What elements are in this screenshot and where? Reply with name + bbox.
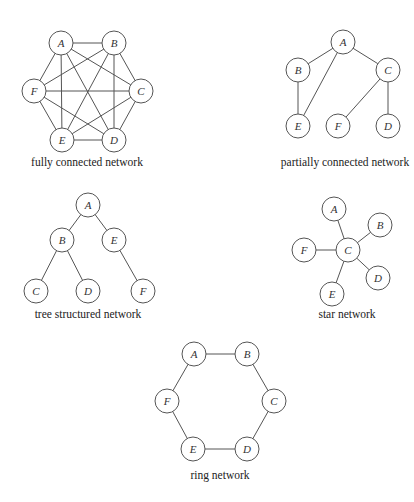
node-label: C (32, 285, 40, 297)
node-D: D (376, 114, 400, 138)
node-A: A (182, 342, 206, 366)
star-network-diagram: ABCFDEstar network (292, 197, 392, 320)
star-caption: star network (318, 308, 375, 320)
node-B: B (286, 58, 310, 82)
node-label: A (57, 37, 65, 49)
node-D: D (102, 128, 126, 152)
node-A: A (322, 197, 346, 221)
node-label: F (139, 285, 147, 297)
edge-B-F (34, 43, 114, 91)
node-C: C (24, 279, 48, 303)
node-label: F (334, 120, 342, 132)
node-D: D (76, 279, 100, 303)
node-C: C (376, 58, 400, 82)
node-label: E (58, 134, 66, 146)
fully-network-diagram: ABCDEFfully connected network (22, 31, 153, 169)
node-label: D (373, 272, 382, 284)
node-D: D (235, 437, 259, 461)
node-label: D (242, 443, 251, 455)
node-E: E (181, 437, 205, 461)
node-label: C (344, 244, 352, 256)
ring-caption: ring network (190, 469, 249, 482)
node-E: E (50, 128, 74, 152)
edge-A-E (298, 42, 343, 126)
ring-network-diagram: ABCDEFring network (155, 342, 286, 482)
node-E: E (320, 282, 344, 306)
node-label: A (339, 36, 347, 48)
node-B: B (50, 228, 74, 252)
node-label: C (137, 85, 145, 97)
node-label: F (300, 244, 308, 256)
node-B: B (102, 31, 126, 55)
node-label: B (244, 348, 251, 360)
node-F: F (131, 279, 155, 303)
node-label: A (330, 203, 338, 215)
node-label: B (111, 37, 118, 49)
node-E: E (286, 114, 310, 138)
node-label: B (295, 64, 302, 76)
node-label: F (163, 395, 171, 407)
node-label: D (83, 285, 92, 297)
node-label: C (270, 395, 278, 407)
node-B: B (235, 342, 259, 366)
fully-caption: fully connected network (31, 156, 143, 169)
tree-network-diagram: ABECDFtree structured network (24, 193, 155, 320)
node-label: E (328, 288, 336, 300)
partial-caption: partially connected network (281, 156, 410, 169)
node-F: F (292, 238, 316, 262)
node-C: C (129, 79, 153, 103)
node-label: B (59, 234, 66, 246)
node-F: F (155, 389, 179, 413)
node-label: A (190, 348, 198, 360)
tree-caption: tree structured network (35, 308, 142, 320)
node-label: E (294, 120, 302, 132)
partial-network-diagram: ABCEFDpartially connected network (281, 30, 410, 169)
node-B: B (368, 213, 392, 237)
node-label: C (384, 64, 392, 76)
node-label: E (189, 443, 197, 455)
node-label: B (377, 219, 384, 231)
node-E: E (102, 228, 126, 252)
node-D: D (366, 266, 390, 290)
node-C: C (336, 238, 360, 262)
node-A: A (49, 31, 73, 55)
node-A: A (331, 30, 355, 54)
node-label: F (30, 85, 38, 97)
node-C: C (262, 389, 286, 413)
node-F: F (22, 79, 46, 103)
node-F: F (326, 114, 350, 138)
node-label: D (383, 120, 392, 132)
node-A: A (76, 193, 100, 217)
node-label: E (110, 234, 118, 246)
network-diagrams-canvas: ABCDEFfully connected networkABCEFDparti… (0, 0, 414, 502)
node-label: D (109, 134, 118, 146)
node-label: A (84, 199, 92, 211)
